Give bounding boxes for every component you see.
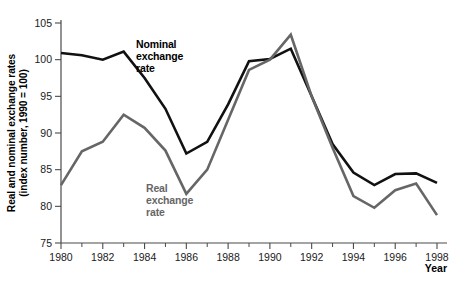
y-tick-label: 85 bbox=[40, 163, 52, 175]
y-tick-label: 75 bbox=[40, 237, 52, 249]
y-axis-ticks: 7580859095100105 bbox=[34, 17, 61, 249]
annotation-real-exchange-rate: exchange bbox=[146, 194, 194, 206]
annotation-nominal-exchange-rate: Nominal bbox=[136, 38, 177, 50]
x-tick-label: 1994 bbox=[342, 251, 366, 263]
annotation-nominal-exchange-rate: rate bbox=[136, 62, 155, 74]
y-axis-title: Real and nominal exchange rates(index nu… bbox=[6, 53, 29, 212]
y-tick-label: 90 bbox=[40, 127, 52, 139]
annotation-real-exchange-rate: Real bbox=[146, 182, 168, 194]
y-tick-label: 80 bbox=[40, 200, 52, 212]
x-axis-title: Year bbox=[425, 262, 447, 274]
x-tick-label: 1990 bbox=[258, 251, 282, 263]
y-tick-label: 95 bbox=[40, 90, 52, 102]
chart-canvas: Real and nominal exchange rates(index nu… bbox=[0, 0, 453, 284]
y-axis-title-line: (index number, 1990 = 100) bbox=[18, 69, 29, 196]
x-tick-label: 1988 bbox=[216, 251, 240, 263]
x-axis-ticks: 1980198219841986198819901992199419961998 bbox=[49, 243, 449, 263]
annotation-nominal-exchange-rate: exchange bbox=[136, 50, 184, 62]
exchange-rate-chart-figure: Real and nominal exchange rates(index nu… bbox=[0, 0, 453, 284]
y-axis-title-line: Real and nominal exchange rates bbox=[6, 53, 17, 212]
y-tick-label: 105 bbox=[34, 17, 52, 29]
annotation-real-exchange-rate: rate bbox=[146, 206, 165, 218]
x-tick-label: 1982 bbox=[91, 251, 115, 263]
x-tick-label: 1980 bbox=[49, 251, 73, 263]
x-tick-label: 1984 bbox=[133, 251, 157, 263]
x-tick-label: 1986 bbox=[175, 251, 199, 263]
x-tick-label: 1992 bbox=[300, 251, 324, 263]
y-tick-label: 100 bbox=[34, 53, 52, 65]
data-series-group bbox=[61, 35, 437, 215]
x-tick-label: 1996 bbox=[384, 251, 408, 263]
